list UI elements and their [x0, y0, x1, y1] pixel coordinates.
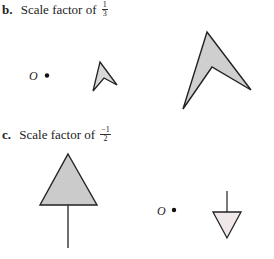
- dilation-figures: O O: [0, 0, 274, 259]
- section-b-preimage-shape: [183, 32, 251, 109]
- section-c-preimage-triangle: [40, 154, 97, 205]
- section-c-center-point: [172, 208, 176, 212]
- section-b-center-point: [45, 73, 49, 77]
- section-b-image-shape: [93, 62, 117, 91]
- section-c-center-label: O: [157, 204, 166, 218]
- section-c-image-triangle: [213, 212, 241, 238]
- section-b-center-label: O: [29, 69, 38, 83]
